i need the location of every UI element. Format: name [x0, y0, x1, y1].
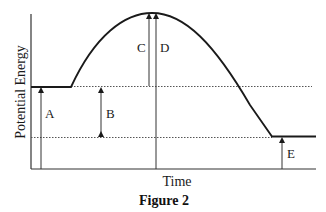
y-axis-label: Potential Energy	[13, 45, 28, 138]
label-b: B	[106, 106, 115, 121]
label-e: E	[287, 146, 295, 161]
potential-energy-diagram: A B C D E Potential Energy Time Figure 2	[0, 0, 326, 212]
label-a: A	[45, 106, 55, 121]
energy-curve	[31, 13, 316, 137]
label-d: D	[160, 40, 169, 55]
figure-caption: Figure 2	[139, 193, 189, 208]
label-c: C	[137, 40, 146, 55]
x-axis-label: Time	[162, 174, 191, 189]
